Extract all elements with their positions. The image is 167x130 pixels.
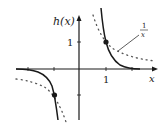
- point-neg1-neg1: [52, 92, 57, 97]
- y-axis-label: h(x): [53, 15, 75, 28]
- reciprocal-label-numerator: 1: [142, 22, 146, 30]
- y-tick-label: 1: [67, 37, 73, 48]
- x-axis-arrow-icon: [152, 67, 158, 72]
- x-axis-label: x: [149, 73, 155, 84]
- x-tick-label: 1: [103, 74, 109, 85]
- function-graph: h(x) 1 1 x 1 x: [0, 0, 167, 130]
- reciprocal-curve-negative: [16, 79, 66, 122]
- label-leader-line: [118, 35, 139, 51]
- point-1-1: [103, 39, 108, 44]
- y-axis-arrow-icon: [77, 15, 82, 21]
- reciprocal-label-denominator: x: [141, 31, 145, 39]
